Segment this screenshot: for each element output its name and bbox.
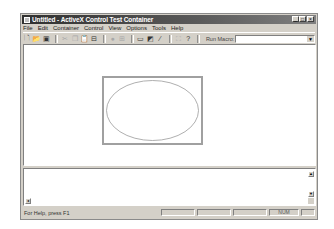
activex-control[interactable] (102, 76, 203, 145)
scroll-down-button[interactable]: ▼ (308, 191, 314, 197)
app-window: Untitled - ActiveX Control Test Containe… (20, 13, 318, 220)
copy-icon[interactable]: ❐ (71, 35, 79, 43)
status-pane (161, 209, 195, 216)
menu-container[interactable]: Container (53, 25, 79, 31)
menu-tools[interactable]: Tools (152, 25, 166, 31)
run-mode-icon[interactable]: ⁄ (156, 35, 164, 43)
status-bar: For Help, press F1 NUM (23, 208, 315, 217)
size-grip[interactable] (308, 198, 314, 204)
status-num-indicator: NUM (269, 209, 299, 216)
toolbar-separator (103, 35, 106, 43)
toolbar-separator (197, 35, 200, 43)
select-icon[interactable]: ⛶ (175, 35, 183, 43)
control-window-icon[interactable]: ▭ (137, 35, 145, 43)
status-pane (233, 209, 267, 216)
design-mode-icon[interactable]: ◩ (147, 35, 155, 43)
toolbar-separator (55, 35, 58, 43)
status-pane (301, 209, 315, 216)
menu-edit[interactable]: Edit (38, 25, 48, 31)
scroll-left-button[interactable]: ◂ (25, 198, 31, 204)
toolbar-separator (131, 35, 134, 43)
container-client-area[interactable] (23, 44, 316, 166)
menu-help[interactable]: Help (171, 25, 183, 31)
toolbar: 🗋 📂 ▣ ✂ ❐ 📋 ⊟ ● ⊞ ▭ ◩ ⁄ ⛶ ? Run Macro: ▼ (23, 32, 315, 44)
scroll-up-button[interactable]: ▲ (308, 171, 314, 177)
maximize-button[interactable]: □ (299, 16, 306, 22)
save-icon[interactable]: ▣ (43, 35, 51, 43)
minimize-button[interactable]: _ (292, 16, 299, 22)
chevron-down-icon[interactable]: ▼ (306, 36, 314, 42)
close-button[interactable]: × (307, 16, 314, 22)
menu-control[interactable]: Control (84, 25, 103, 31)
ellipse-shape (104, 78, 201, 143)
status-help-text: For Help, press F1 (23, 210, 159, 216)
status-pane (197, 209, 231, 216)
paste-icon[interactable]: 📋 (80, 35, 88, 43)
invoke-methods-icon[interactable]: ● (109, 35, 117, 43)
open-icon[interactable]: 📂 (33, 35, 41, 43)
output-pane[interactable]: ▲ ▼ ◂ (23, 168, 316, 206)
window-title: Untitled - ActiveX Control Test Containe… (32, 16, 153, 23)
run-macro-label: Run Macro: (206, 36, 234, 42)
cut-icon[interactable]: ✂ (61, 35, 69, 43)
properties-icon[interactable]: ⊞ (118, 35, 126, 43)
help-icon[interactable]: ? (184, 35, 192, 43)
menu-bar: File Edit Container Control View Options… (23, 24, 188, 32)
app-icon[interactable] (24, 17, 30, 23)
new-icon[interactable]: 🗋 (23, 35, 31, 43)
menu-view[interactable]: View (108, 25, 121, 31)
menu-file[interactable]: File (23, 25, 33, 31)
menu-options[interactable]: Options (126, 25, 147, 31)
insert-control-icon[interactable]: ⊟ (90, 35, 98, 43)
title-bar[interactable]: Untitled - ActiveX Control Test Containe… (22, 15, 316, 24)
toolbar-separator (169, 35, 172, 43)
run-macro-combobox[interactable]: ▼ (235, 35, 315, 43)
